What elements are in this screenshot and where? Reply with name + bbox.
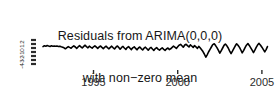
y-axis-tick-label: 1	[18, 44, 25, 48]
x-axis-tick-label: 2005	[250, 76, 274, 88]
y-axis-tick-label: -4	[18, 63, 25, 69]
y-axis-tick-label: 2	[18, 40, 25, 44]
y-axis: 210-1-2-3-4	[18, 40, 36, 69]
y-axis-tick-label: 0	[18, 48, 25, 52]
residuals-plot-figure: Residuals from ARIMA(0,0,0) with non−zer…	[0, 0, 280, 101]
residuals-line	[43, 43, 267, 57]
plot-area: 210-1-2-3-4 199520002005	[0, 0, 280, 101]
x-axis-tick-label: 2000	[165, 76, 189, 88]
x-axis: 199520002005	[81, 70, 274, 88]
x-axis-tick-label: 1995	[81, 76, 105, 88]
